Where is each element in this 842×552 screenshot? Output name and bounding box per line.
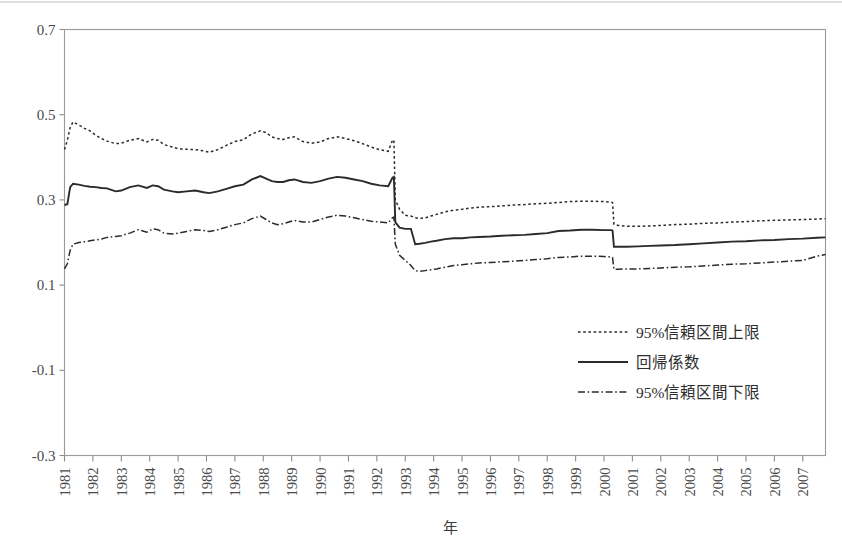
x-tick-label: 1997 bbox=[511, 468, 527, 497]
x-tick-label: 2007 bbox=[795, 468, 811, 497]
x-tick-label: 1994 bbox=[426, 467, 442, 497]
x-tick-label: 1983 bbox=[114, 468, 130, 497]
x-tick-label: 1991 bbox=[341, 468, 357, 497]
x-tick-label: 2005 bbox=[738, 468, 754, 497]
x-tick-label: 1985 bbox=[171, 468, 187, 497]
x-tick-label: 2004 bbox=[710, 467, 726, 497]
y-tick-label: 0.5 bbox=[37, 107, 56, 123]
x-tick-label: 1996 bbox=[483, 468, 499, 497]
legend-label: 回帰係数 bbox=[636, 354, 700, 371]
x-tick-label: 1987 bbox=[227, 468, 243, 497]
x-tick-label: 2002 bbox=[653, 468, 669, 497]
x-tick-label: 1998 bbox=[540, 468, 556, 497]
legend-label: 95%信頼区間下限 bbox=[636, 384, 760, 401]
x-axis-title: 年 bbox=[443, 520, 458, 536]
x-tick-label: 1988 bbox=[256, 468, 272, 497]
x-tick-label: 1995 bbox=[455, 468, 471, 497]
x-tick-label: 1993 bbox=[398, 468, 414, 497]
x-tick-label: 1989 bbox=[284, 468, 300, 497]
y-tick-label: 0.1 bbox=[37, 277, 56, 293]
x-tick-label: 2003 bbox=[682, 468, 698, 497]
y-tick-label: 0.7 bbox=[37, 22, 56, 38]
regression-coefficient-chart: 0.70.50.30.1-0.1-0.3 1981198219831984198… bbox=[0, 0, 842, 552]
x-tick-label: 1986 bbox=[199, 468, 215, 497]
x-tick-label: 2000 bbox=[597, 468, 613, 497]
y-tick-label: -0.1 bbox=[32, 362, 56, 378]
legend-label: 95%信頼区間上限 bbox=[636, 324, 760, 341]
x-tick-label: 2001 bbox=[625, 468, 641, 497]
x-tick-label: 1990 bbox=[313, 468, 329, 497]
x-tick-label: 1999 bbox=[568, 468, 584, 497]
x-tick-label: 1982 bbox=[85, 468, 101, 497]
x-tick-label: 2006 bbox=[767, 468, 783, 497]
x-tick-label: 1992 bbox=[369, 468, 385, 497]
y-tick-label: 0.3 bbox=[37, 192, 56, 208]
x-tick-label: 1981 bbox=[57, 468, 73, 497]
y-tick-label: -0.3 bbox=[32, 448, 56, 464]
x-tick-label: 1984 bbox=[142, 467, 158, 497]
